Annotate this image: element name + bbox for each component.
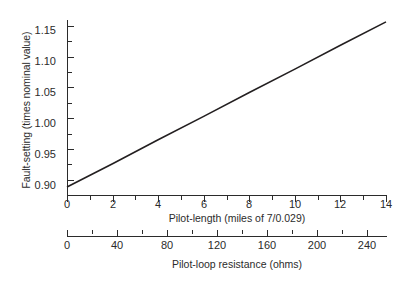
r-tick-label: 40	[102, 240, 132, 251]
y-tick-label: 0.90	[22, 180, 56, 191]
x-tick-label: 14	[373, 199, 399, 210]
x-tick-label: 4	[145, 199, 171, 210]
plot-area	[67, 20, 386, 195]
y-tick-label: 1.15	[22, 25, 56, 36]
x-tick-label: 0	[54, 199, 80, 210]
secondary-axis-line	[67, 236, 387, 237]
y-axis-tick-labels: 0.90 0.95 1.00 1.05 1.10 1.15	[20, 0, 56, 282]
r-tick-minor	[142, 230, 143, 234]
r-tick-minor	[242, 230, 243, 234]
r-tick-major	[267, 230, 268, 236]
x-tick-label: 12	[327, 199, 353, 210]
r-tick-label: 0	[52, 240, 82, 251]
x-axis-tick-labels: 0 2 4 6 8 10 12 14	[67, 199, 407, 213]
x-tick-label: 8	[236, 199, 262, 210]
x-tick-label: 2	[100, 199, 126, 210]
y-tick-label: 0.95	[22, 149, 56, 160]
r-tick-minor	[192, 230, 193, 234]
r-tick-label: 80	[152, 240, 182, 251]
r-tick-major	[167, 230, 168, 236]
r-tick-label: 120	[202, 240, 232, 251]
x-tick-label: 10	[282, 199, 308, 210]
r-tick-minor	[342, 230, 343, 234]
r-tick-major	[317, 230, 318, 236]
r-tick-label: 240	[352, 240, 382, 251]
x-axis-title: Pilot-length (miles of 7/0.029)	[0, 212, 418, 224]
secondary-axis-title: Pilot-loop resistance (ohms)	[0, 258, 418, 270]
y-tick-label: 1.05	[22, 87, 56, 98]
chart-figure: Fault-setting (times nominal value) 0.90…	[0, 0, 418, 282]
r-tick-minor	[292, 230, 293, 234]
r-tick-major	[67, 230, 68, 236]
y-tick-label: 1.00	[22, 118, 56, 129]
secondary-axis-tick-labels: 0 40 80 120 160 200 240	[67, 240, 407, 254]
y-tick-label: 1.10	[22, 56, 56, 67]
x-tick-label: 6	[191, 199, 217, 210]
data-series-line	[67, 20, 386, 195]
r-tick-label: 200	[302, 240, 332, 251]
r-tick-major	[117, 230, 118, 236]
r-tick-major	[367, 230, 368, 236]
r-tick-minor	[92, 230, 93, 234]
r-tick-label: 160	[252, 240, 282, 251]
r-tick-major	[217, 230, 218, 236]
